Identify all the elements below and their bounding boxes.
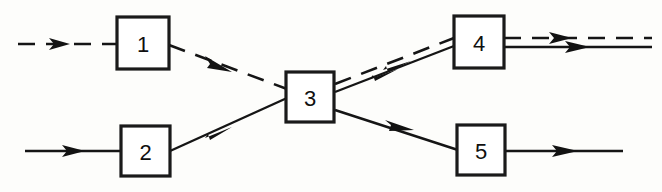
edge-block-5-to-output [505, 145, 623, 157]
edge-block-2-to-block-3 [170, 98, 287, 151]
edge-block-1-to-block-3 [169, 45, 287, 89]
node-block-3[interactable]: 3 [286, 72, 334, 122]
edge-block-4-to-output-dashed [504, 32, 652, 44]
edge-input-to-block-1 [18, 38, 117, 50]
edge-block-4-to-output-solid [504, 41, 652, 53]
diagram-canvas: 1 2 3 4 5 [0, 0, 662, 192]
node-block-2-label: 2 [139, 140, 151, 165]
node-block-1-label: 1 [137, 32, 149, 57]
edge-block-2-to-block-3-line [170, 98, 287, 151]
edge-block-3-to-block-4-dashed [335, 38, 454, 84]
block-diagram: 1 2 3 4 5 [0, 0, 662, 192]
node-block-4-label: 4 [473, 31, 485, 56]
edge-block-3-to-block-4-dashed-line [335, 38, 454, 84]
arrowhead-block-3-to-block-4-solid [370, 69, 398, 81]
node-block-4[interactable]: 4 [454, 16, 504, 68]
arrowhead-block-1-to-block-3 [205, 56, 232, 72]
edge-input-to-block-2 [25, 145, 121, 157]
node-block-1[interactable]: 1 [117, 17, 169, 69]
arrowhead-block-3-to-block-5 [385, 120, 414, 131]
edge-block-3-to-block-4-solid-line [335, 46, 454, 92]
node-block-2[interactable]: 2 [121, 126, 170, 176]
node-block-5[interactable]: 5 [457, 125, 505, 175]
edge-block-3-to-block-4-solid [335, 46, 454, 92]
edge-block-3-to-block-5 [335, 110, 458, 150]
node-block-3-label: 3 [304, 86, 316, 111]
edge-block-1-to-block-3-line [169, 45, 287, 89]
node-block-5-label: 5 [475, 139, 487, 164]
